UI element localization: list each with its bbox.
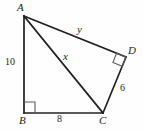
vertex-label-C: C <box>99 115 106 126</box>
side-label-BC: 8 <box>57 114 62 124</box>
side-label-AB: 10 <box>5 57 15 67</box>
segment-AC <box>24 16 103 113</box>
side-label-AD: y <box>77 24 82 35</box>
side-label-AC: x <box>63 51 68 62</box>
vertex-label-A: A <box>17 2 24 13</box>
vertex-label-D: D <box>128 45 136 56</box>
geometry-figure <box>0 0 144 131</box>
segment-AD <box>24 16 126 57</box>
geometry-diagram: A B C D 10 8 6 x y <box>0 0 144 131</box>
side-label-CD: 6 <box>120 83 125 93</box>
vertex-label-B: B <box>19 115 26 126</box>
right-angle-marker-B <box>24 102 35 113</box>
